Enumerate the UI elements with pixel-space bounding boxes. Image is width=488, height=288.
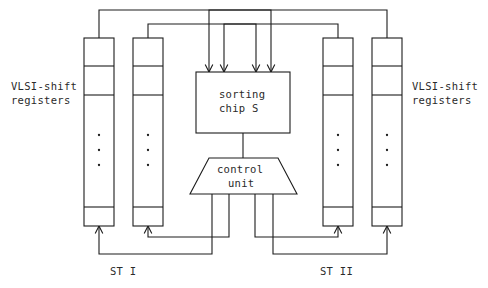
diagram-canvas-root: sorting chip S control unit bbox=[0, 0, 488, 288]
stream-right-label-text: ST II bbox=[320, 265, 353, 277]
architecture-diagram: sorting chip S control unit bbox=[0, 0, 488, 288]
right-registers-label-line2: registers bbox=[412, 94, 472, 106]
register-input-arrow-4 bbox=[383, 226, 391, 234]
feedback-path-outer-right bbox=[209, 10, 387, 64]
stream-right-label: ST II bbox=[320, 265, 353, 277]
right-registers-label-line1: VLSI-shift bbox=[412, 80, 478, 92]
shift-register-column-3 bbox=[323, 38, 353, 226]
chip-input-arrow-3 bbox=[252, 64, 260, 72]
chip-input-arrow-2 bbox=[220, 64, 228, 72]
register-input-arrow-2 bbox=[144, 226, 152, 234]
right-registers-label: VLSI-shift registers bbox=[412, 80, 478, 106]
left-registers-label: VLSI-shift registers bbox=[11, 80, 77, 106]
stream-left-label: ST I bbox=[110, 265, 137, 277]
shift-register-column-4 bbox=[372, 38, 402, 226]
register-input-arrow-3 bbox=[334, 226, 342, 234]
left-registers-label-line2: registers bbox=[11, 94, 71, 106]
control-unit-label-line1: control bbox=[217, 163, 263, 175]
control-unit-block: control unit bbox=[190, 158, 297, 194]
chip-input-arrow-1 bbox=[205, 64, 213, 72]
stream-left-label-text: ST I bbox=[110, 265, 137, 277]
chip-input-arrow-4 bbox=[267, 64, 275, 72]
left-registers-label-line1: VLSI-shift bbox=[11, 80, 77, 92]
sorting-chip-label-line1: sorting bbox=[219, 88, 265, 100]
shift-register-column-1 bbox=[84, 38, 114, 226]
control-unit-label-line2: unit bbox=[228, 177, 255, 189]
feedback-path-inner-left bbox=[148, 24, 256, 64]
feedback-path-outer-left bbox=[99, 10, 271, 64]
feedback-path-inner-right bbox=[224, 24, 338, 64]
sorting-chip-block: sorting chip S bbox=[196, 72, 290, 133]
register-input-arrow-1 bbox=[95, 226, 103, 234]
shift-register-column-2 bbox=[133, 38, 163, 226]
sorting-chip-label-line2: chip S bbox=[219, 102, 259, 114]
